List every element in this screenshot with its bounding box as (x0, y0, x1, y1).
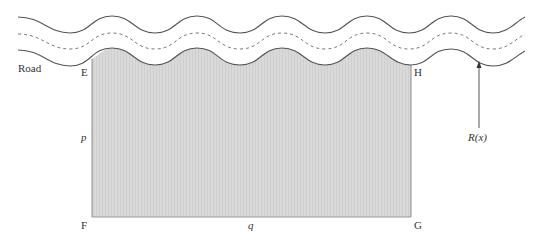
corner-label-f: F (81, 219, 87, 231)
land-plot (92, 44, 411, 217)
function-label-rx: R(x) (467, 131, 487, 144)
road-plot-diagram: Road E H F G p q R(x) (0, 0, 539, 240)
road-center-line (18, 33, 525, 49)
corner-label-e: E (81, 66, 88, 78)
road-label: Road (18, 62, 42, 74)
rx-arrow (477, 61, 482, 128)
corner-label-g: G (414, 219, 422, 231)
corner-label-h: H (414, 66, 422, 78)
width-label-q: q (248, 219, 254, 231)
height-label-p: p (80, 131, 87, 143)
road-top-edge (18, 16, 525, 33)
